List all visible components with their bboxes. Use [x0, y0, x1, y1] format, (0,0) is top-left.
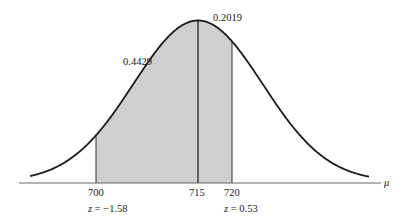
area-label-left: 0.4429	[123, 56, 152, 67]
shaded-area	[96, 21, 232, 184]
normal-curve-diagram: 0.4429 0.2019 700 715 720 z = −1.58 z = …	[0, 0, 402, 223]
axis-label-mu: μ	[383, 177, 389, 188]
z-label-left: z = −1.58	[87, 203, 128, 214]
tick-label-700: 700	[88, 187, 104, 198]
tick-label-715: 715	[189, 187, 205, 198]
tick-label-720: 720	[224, 187, 240, 198]
z-label-right: z = 0.53	[223, 203, 258, 214]
area-label-right: 0.2019	[213, 12, 242, 23]
